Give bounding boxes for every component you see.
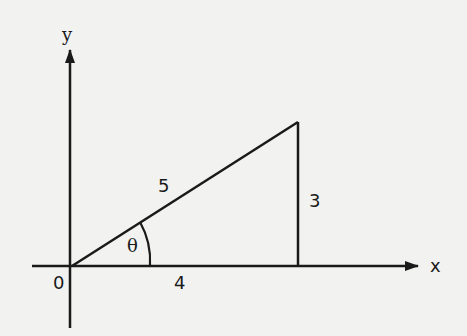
- angle-arc: [140, 222, 150, 266]
- angle-theta-label: θ: [127, 235, 138, 256]
- opposite-length-label: 3: [309, 190, 320, 211]
- origin-label: 0: [53, 272, 64, 293]
- right-triangle-diagram: y x 0 4 3 5 θ: [0, 0, 467, 336]
- diagram-canvas: y x 0 4 3 5 θ: [0, 0, 467, 336]
- x-axis-label: x: [430, 255, 441, 276]
- hypotenuse-length-label: 5: [158, 175, 169, 196]
- adjacent-length-label: 4: [174, 272, 185, 293]
- y-axis-label: y: [61, 24, 73, 45]
- hypotenuse-line: [72, 122, 298, 266]
